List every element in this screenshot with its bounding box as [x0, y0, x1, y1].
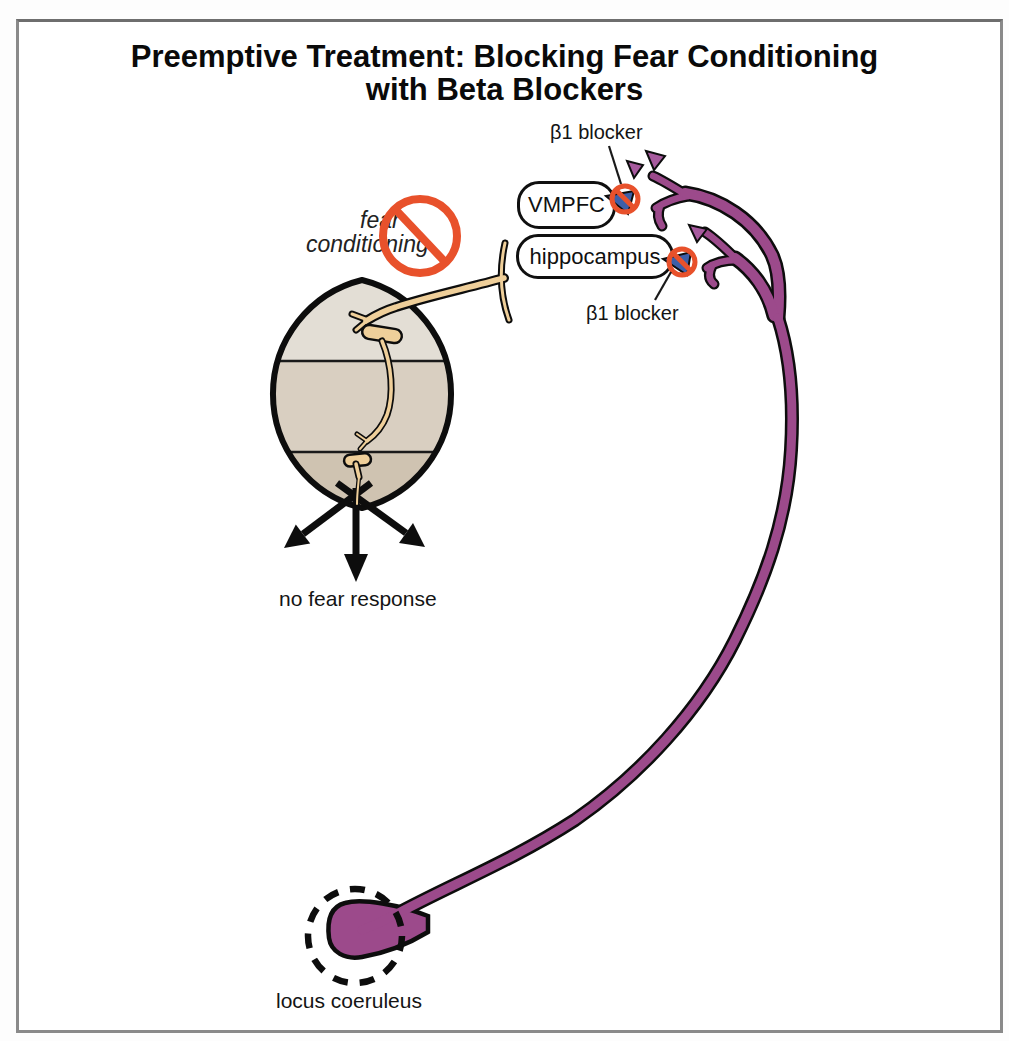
figure-title: Preemptive Treatment: Blocking Fear Cond… — [0, 40, 1009, 106]
b1-receptor-hippocampus — [663, 249, 695, 275]
diagram-canvas — [0, 0, 1009, 1041]
locus-coeruleus-label: locus coeruleus — [276, 989, 422, 1013]
no-fear-response-label: no fear response — [279, 587, 437, 611]
amygdala-shape — [265, 275, 460, 512]
beta-blocker-label-bottom: β1 blocker — [586, 302, 679, 325]
figure-page: Preemptive Treatment: Blocking Fear Cond… — [0, 0, 1009, 1041]
beta-blocker-label-top: β1 blocker — [550, 121, 643, 144]
b1-receptor-vmpfc — [606, 186, 638, 214]
output-arrows — [284, 483, 425, 582]
pointer-line-top — [609, 146, 621, 184]
ne-triangle-icon — [627, 161, 643, 178]
pointer-line-bottom — [655, 272, 671, 300]
fear-prohibition-icon — [383, 199, 457, 273]
figure-title-line1: Preemptive Treatment: Blocking Fear Cond… — [0, 40, 1009, 73]
ne-triangle-icon — [689, 225, 707, 242]
ne-triangle-icon — [646, 151, 665, 170]
figure-title-line2: with Beta Blockers — [0, 73, 1009, 106]
